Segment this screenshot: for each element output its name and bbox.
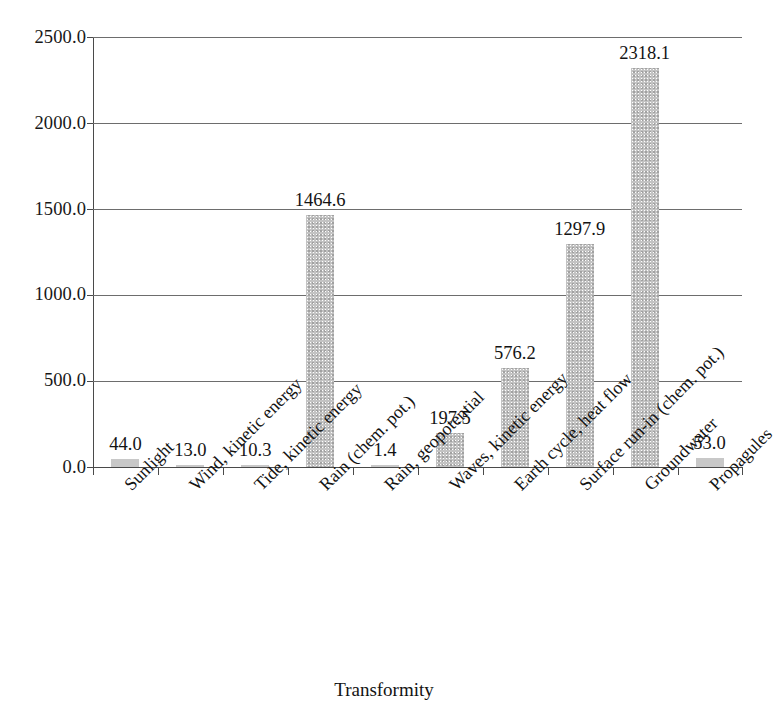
value-label-surface-run-in-chem-pot: 1297.9 <box>554 220 605 239</box>
y-tick-label-0: 0.0 <box>2 458 86 477</box>
y-tick-label-500: 500.0 <box>2 371 86 390</box>
value-label-sunlight: 44.0 <box>109 435 141 454</box>
plot-area <box>93 37 742 467</box>
x-tick-mark-0 <box>93 467 94 475</box>
x-axis-title: Transformity <box>0 680 768 699</box>
value-label-earth-cycle-heat-flow: 576.2 <box>494 344 536 363</box>
gridline-2500 <box>93 37 742 38</box>
y-tick-label-1500: 1500.0 <box>2 200 86 219</box>
y-tick-label-2500: 2500.0 <box>2 28 86 47</box>
value-label-groundwater: 2318.1 <box>619 44 670 63</box>
y-tick-label-2000: 2000.0 <box>2 114 86 133</box>
value-label-rain-chem-pot: 1464.6 <box>295 191 346 210</box>
value-label-wind-kinetic-energy: 13.0 <box>174 441 206 460</box>
y-axis-tick-labels: 2500.0 2000.0 1500.0 1000.0 500.0 0.0 <box>0 0 86 715</box>
y-tick-label-1000: 1000.0 <box>2 285 86 304</box>
